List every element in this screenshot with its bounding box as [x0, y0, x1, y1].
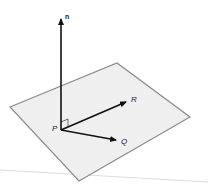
label-P: P	[52, 124, 58, 133]
label-n: n	[65, 13, 69, 20]
baseline	[0, 170, 208, 182]
plane	[10, 63, 190, 181]
label-R: R	[131, 95, 137, 104]
plane-normal-diagram: n R Q P	[0, 0, 208, 191]
label-Q: Q	[121, 137, 127, 146]
